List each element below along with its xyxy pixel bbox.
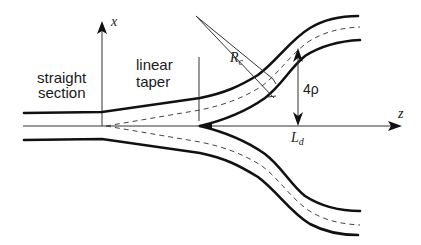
lower-centerline [106,126,360,225]
z-axis-label: z [397,106,404,121]
lower-outer-wall [24,139,358,235]
waveguide-diagram: straight section linear taper x z Rc 4ρ … [0,0,421,245]
linear-taper-label-line2: taper [136,73,170,90]
x-axis-label: x [110,14,118,29]
straight-section-label-line2: section [38,84,86,101]
length-label: Ld [290,130,305,147]
radius-tick-2 [273,79,276,84]
separation-label: 4ρ [303,81,319,97]
radius-line-2 [196,16,273,79]
linear-taper-label: linear [136,56,173,73]
